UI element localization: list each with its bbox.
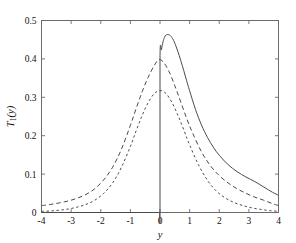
x-tick-label-1: -3 <box>67 216 75 226</box>
y-tick-label-0: 0 <box>32 208 37 218</box>
x-tick-label-7: 3 <box>247 216 252 226</box>
y-tick-label-3: 0.3 <box>25 93 37 103</box>
chart-canvas: -4-3-2-101234 00.10.20.30.40.5 y T1(y) <box>0 0 296 243</box>
x-tick-label-0: -4 <box>38 216 46 226</box>
x-tick-label-5: 1 <box>187 216 192 226</box>
y-tick-label-5: 0.5 <box>25 16 37 26</box>
x-tick-label-3: -1 <box>126 216 134 226</box>
figure-container: -4-3-2-101234 00.10.20.30.40.5 y T1(y) <box>0 0 296 243</box>
x-tick-label-2: -2 <box>97 216 105 226</box>
x-tick-label-8: 4 <box>276 216 281 226</box>
x-tick-label-6: 2 <box>217 216 222 226</box>
y-tick-label-1: 0.1 <box>25 170 37 180</box>
x-axis-title-text: y <box>157 229 163 240</box>
y-tick-label-2: 0.2 <box>25 131 37 141</box>
x-axis-title: y <box>157 229 163 240</box>
y-tick-label-4: 0.4 <box>25 54 37 64</box>
figure-background <box>0 0 296 243</box>
